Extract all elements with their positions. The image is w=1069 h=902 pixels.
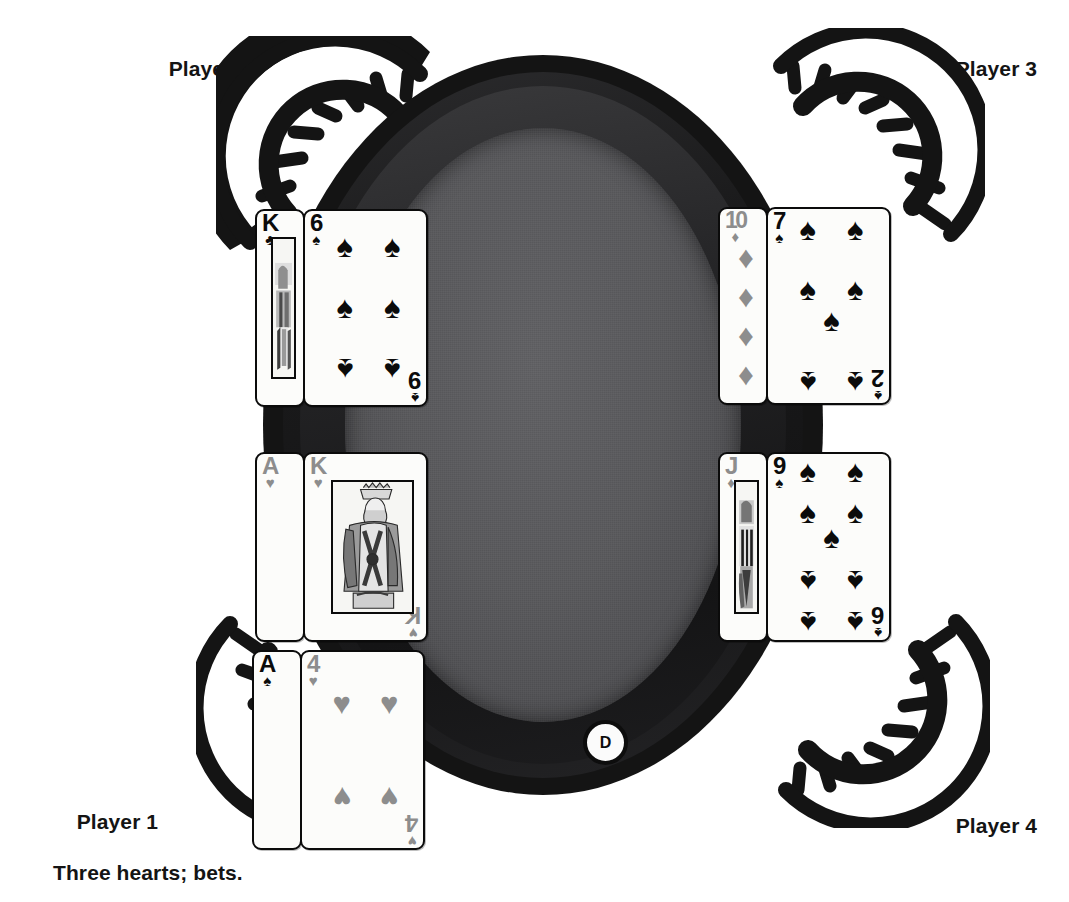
dealer-button[interactable]: D (583, 720, 628, 765)
card-pips: ♠ ♠ ♠ ♠ ♠ ♠ ♠ ♠ ♠ (784, 460, 879, 634)
card-corner-index: A ♠ (259, 653, 275, 688)
player-3-name: Player 3 (956, 57, 1037, 80)
hand-player-2[interactable]: K ♣ 6 ♠ (255, 209, 428, 407)
card-4-hearts[interactable]: 4 ♥ 4 ♥ ♥♥ ♥♥ (300, 650, 425, 850)
face-card-art-king-hearts (331, 480, 414, 614)
player-4-name: Player 4 (956, 814, 1037, 837)
card-king-hearts[interactable]: K ♥ K ♥ (303, 452, 428, 642)
card-6-spades[interactable]: 6 ♠ 9 ♠ ♠♠ ♠♠ ♠♠ (303, 209, 428, 407)
player-2-name: Player 2 (169, 57, 250, 80)
card-pips: ♠♠ ♠♠ ♠♠ (321, 217, 416, 399)
card-pips: ♦♦♦♦ (730, 239, 762, 395)
player-1-name: Player 1 (77, 810, 158, 833)
player-1-action-note: Three hearts; bets. (53, 860, 243, 886)
card-10-diamonds[interactable]: 10 ♦ ♦♦♦♦ (718, 207, 768, 405)
card-jack-diamonds[interactable]: J ♦ (718, 452, 768, 642)
hand-player-1-upper[interactable]: A ♥ K ♥ K ♥ (255, 452, 428, 642)
player-1-label: Player 1 Three hearts; bets. (53, 783, 243, 902)
hand-player-3[interactable]: 10 ♦ ♦♦♦♦ 7 ♠ 2 ♠ ♠ ♠ ♠ ♠ ♠ ♠ (718, 207, 891, 405)
card-king-clubs[interactable]: K ♣ (255, 209, 305, 407)
player-2-label: Player 2 (145, 30, 250, 107)
card-corner-index: A ♥ (262, 455, 278, 490)
card-pips: ♥♥ ♥♥ (318, 658, 413, 842)
player-3-label: Player 3 (932, 30, 1037, 107)
face-card-art-king-clubs (271, 237, 296, 379)
card-7-spades[interactable]: 7 ♠ 2 ♠ ♠ ♠ ♠ ♠ ♠ ♠ ♠ (766, 207, 891, 405)
poker-table-scene: D K ♣ (0, 0, 1069, 902)
hand-player-1-lower[interactable]: A ♠ 4 ♥ 4 ♥ ♥♥ ♥♥ (252, 650, 425, 850)
hand-player-4[interactable]: J ♦ (718, 452, 891, 642)
face-card-art-jack-diamonds (734, 480, 759, 614)
player-4-label: Player 4 (932, 787, 1037, 864)
card-pips: ♠ ♠ ♠ ♠ ♠ ♠ ♠ (784, 215, 879, 397)
card-corner-index: K ♥ (310, 455, 326, 490)
card-9-spades[interactable]: 9 ♠ 6 ♠ ♠ ♠ ♠ ♠ ♠ ♠ ♠ ♠ ♠ (766, 452, 891, 642)
card-ace-hearts[interactable]: A ♥ (255, 452, 305, 642)
card-ace-spades[interactable]: A ♠ (252, 650, 302, 850)
